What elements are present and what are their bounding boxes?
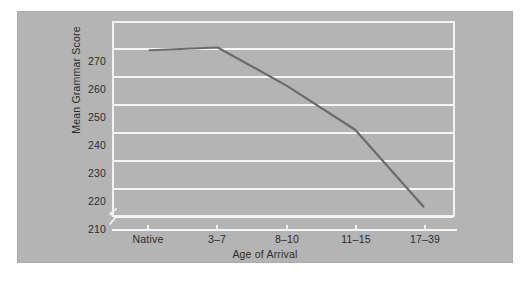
y-tick-label: 260 — [88, 83, 106, 95]
chart-panel: Mean Grammar Score 270 260 250 240 230 2… — [18, 12, 512, 262]
x-tick-label-8-10: 8–10 — [275, 233, 299, 245]
x-tick-mark — [286, 225, 288, 231]
x-tick-label-3-7: 3–7 — [208, 233, 226, 245]
y-axis-tick-labels: 270 260 250 240 230 220 210 — [66, 24, 106, 274]
y-tick-label: 240 — [88, 139, 106, 151]
x-axis-line — [112, 229, 457, 231]
y-tick-label: 270 — [88, 55, 106, 67]
series-polyline — [150, 47, 424, 206]
y-tick-label: 220 — [88, 195, 106, 207]
data-series-line — [114, 23, 453, 215]
y-tick-label: 250 — [88, 111, 106, 123]
plot-area — [112, 21, 455, 217]
x-axis-title: Age of Arrival — [18, 248, 512, 260]
y-tick-label: 230 — [88, 167, 106, 179]
x-tick-mark — [216, 225, 218, 231]
x-tick-label-11-15: 11–15 — [341, 233, 370, 245]
gridline-210 — [114, 216, 453, 218]
figure-root: Mean Grammar Score 270 260 250 240 230 2… — [0, 0, 528, 283]
x-tick-label-17-39: 17–39 — [410, 233, 440, 245]
x-tick-mark — [355, 225, 357, 231]
x-tick-label-native: Native — [133, 233, 164, 245]
x-tick-mark — [147, 225, 149, 231]
y-tick-label: 210 — [88, 223, 106, 235]
x-tick-mark — [424, 225, 426, 231]
